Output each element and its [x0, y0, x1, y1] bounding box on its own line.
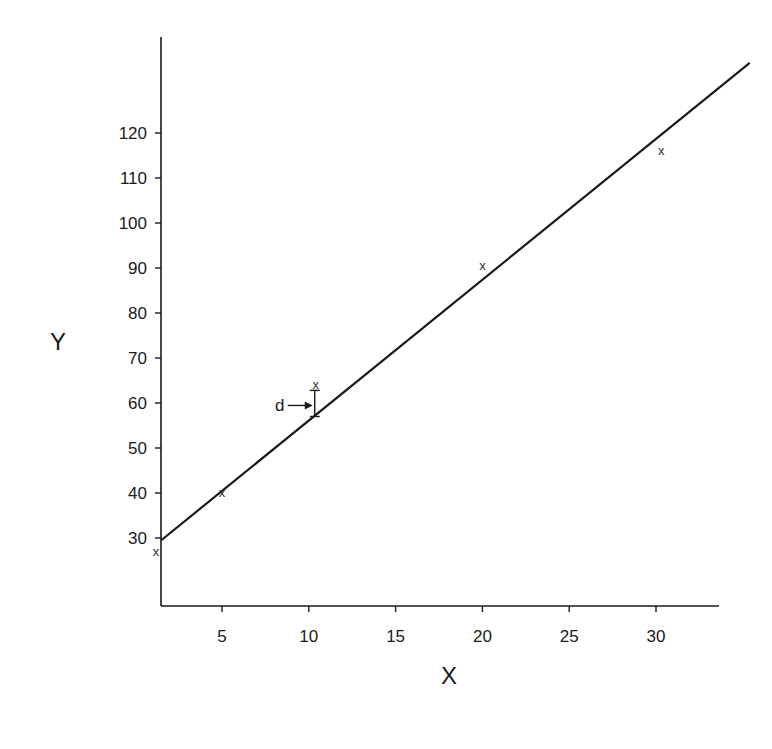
y-tick-label: 30 — [128, 529, 147, 548]
y-tick-label: 60 — [128, 394, 147, 413]
arrowhead-icon — [305, 401, 313, 409]
x-tick-label: 20 — [473, 627, 492, 646]
y-tick-label: 90 — [128, 259, 147, 278]
data-points: xxxxx — [153, 143, 665, 559]
x-axis-title: X — [441, 662, 457, 689]
y-tick-label: 50 — [128, 439, 147, 458]
x-tick-label: 5 — [217, 627, 226, 646]
y-tick-label: 100 — [119, 214, 147, 233]
y-tick-label: 80 — [128, 304, 147, 323]
scatter-chart: 30405060708090100110120 51015202530 xxxx… — [0, 0, 772, 749]
x-tick-label: 30 — [647, 627, 666, 646]
y-axis-title: Y — [50, 328, 66, 355]
y-ticks: 30405060708090100110120 — [119, 124, 161, 548]
data-point-x-marker: x — [219, 485, 226, 500]
x-tick-label: 25 — [560, 627, 579, 646]
x-tick-label: 10 — [299, 627, 318, 646]
x-tick-label: 15 — [386, 627, 405, 646]
data-point-x-marker: x — [658, 143, 665, 158]
data-point-x-marker: x — [479, 258, 486, 273]
y-tick-label: 120 — [119, 124, 147, 143]
deviation-label: d — [275, 396, 284, 415]
y-tick-label: 70 — [128, 349, 147, 368]
x-ticks: 51015202530 — [217, 606, 665, 646]
y-tick-label: 110 — [120, 169, 147, 188]
axes — [161, 37, 719, 606]
regression-line — [161, 63, 750, 540]
data-point-x-marker: x — [153, 544, 160, 559]
y-tick-label: 40 — [128, 484, 147, 503]
deviation-annotation: d — [275, 390, 320, 416]
